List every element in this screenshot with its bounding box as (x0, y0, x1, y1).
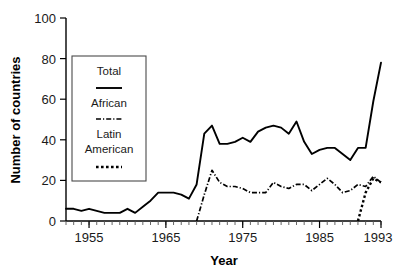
y-tick-100: 100 (34, 11, 56, 26)
x-tick-1975: 1975 (228, 230, 257, 245)
y-axis-title: Number of countries (8, 56, 23, 183)
x-axis-title: Year (210, 253, 237, 268)
x-tick-1965: 1965 (152, 230, 181, 245)
y-tick-0: 0 (49, 214, 56, 229)
x-tick-1985: 1985 (305, 230, 334, 245)
y-tick-80: 80 (42, 52, 56, 67)
legend-label-total: Total (97, 65, 121, 77)
y-tick-20: 20 (42, 173, 56, 188)
chart-legend: Total African Latin American (72, 56, 146, 181)
legend-label-latin-line1: Latin (97, 128, 122, 140)
y-tick-60: 60 (42, 92, 56, 107)
x-tick-1993: 1993 (364, 230, 393, 245)
line-chart: 100 80 60 40 20 0 Number of countries 19… (0, 0, 402, 275)
x-tick-1955: 1955 (75, 230, 104, 245)
chart-container: 100 80 60 40 20 0 Number of countries 19… (0, 0, 402, 275)
chart-background (0, 0, 402, 275)
legend-label-latin-line2: American (85, 143, 134, 155)
legend-label-african: African (91, 97, 127, 109)
y-tick-40: 40 (42, 133, 56, 148)
